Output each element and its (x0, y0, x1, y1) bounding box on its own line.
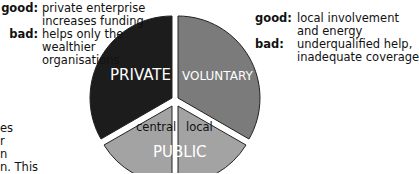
label-voluntary: VOLUNTARY (182, 69, 253, 83)
label-public: PUBLIC (153, 143, 207, 161)
label-central: central (136, 120, 176, 134)
label-local: local (186, 120, 213, 134)
label-private: PRIVATE (110, 66, 171, 84)
voluntary-pros-cons-note: good: local involvement and energy bad: … (255, 12, 419, 64)
bad-key: bad: (255, 38, 297, 64)
good-key: good: (1, 2, 42, 28)
good-key: good: (255, 12, 297, 38)
bad-line: inadequate coverage (297, 51, 419, 64)
private-pros-cons-note: good: private enterprise increases fundi… (1, 2, 145, 67)
bad-line: organisations (42, 54, 123, 67)
bad-key: bad: (1, 28, 42, 67)
clipped-text-fragment: n. This (0, 161, 38, 174)
